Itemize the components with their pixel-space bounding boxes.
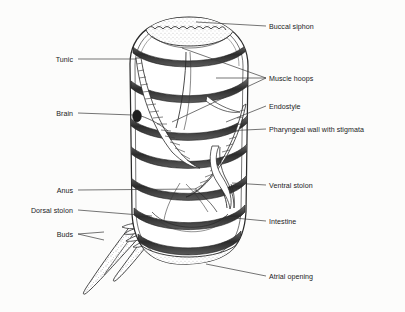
label-ventral-stolon: Ventral stolon (269, 183, 313, 190)
label-pharyngeal-wall: Pharyngeal wall with stigmata (269, 127, 364, 134)
salp-anatomy-drawing (0, 0, 405, 312)
leader-atrial-opening (206, 264, 266, 276)
label-tunic: Tunic (56, 57, 73, 64)
leader-brain (78, 113, 133, 115)
label-buccal-siphon: Buccal siphon (269, 24, 314, 31)
label-endostyle: Endostyle (269, 104, 301, 111)
diagram-canvas: Buccal siphon Muscle hoops Endostyle Pha… (0, 0, 405, 312)
label-buds: Buds (57, 232, 73, 239)
label-intestine: Intestine (269, 219, 296, 226)
label-muscle-hoops: Muscle hoops (269, 76, 313, 83)
label-brain: Brain (56, 111, 73, 118)
label-atrial-opening: Atrial opening (269, 274, 313, 281)
label-dorsal-stolon: Dorsal stolon (31, 208, 73, 215)
leader-buds-a (78, 232, 104, 234)
label-anus: Anus (57, 188, 73, 195)
leader-buds-b (78, 234, 104, 240)
